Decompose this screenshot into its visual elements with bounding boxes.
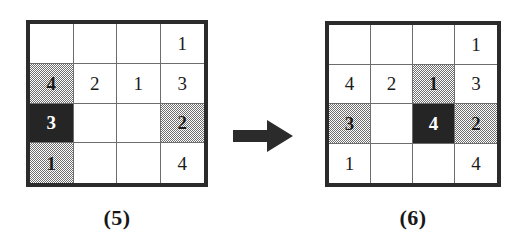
grid-6: 1 4 2 1 3 3 4 2 1 4	[325, 21, 501, 187]
panel-6: 1 4 2 1 3 3 4 2 1 4 (6)	[325, 21, 501, 243]
cell-value: 1	[178, 34, 188, 53]
cell-r4c3[interactable]	[413, 144, 455, 184]
cell-r1c4[interactable]: 1	[161, 24, 205, 64]
cell-value: 4	[345, 74, 355, 93]
cell-r1c4[interactable]: 1	[455, 25, 497, 65]
cell-value: 1	[429, 74, 439, 93]
cell-r2c4[interactable]: 3	[161, 64, 205, 104]
cell-r2c2[interactable]: 2	[371, 65, 413, 105]
cell-r2c3[interactable]: 1	[117, 64, 161, 104]
cell-r1c1[interactable]	[30, 24, 74, 64]
grid-5: 1 4 2 1 3 3 2 1 4	[26, 20, 208, 187]
cell-value: 3	[345, 114, 355, 133]
cell-r4c4[interactable]: 4	[455, 144, 497, 184]
cell-r3c2[interactable]	[74, 104, 118, 144]
figure-canvas: 1 4 2 1 3 3 2 1 4 (5)	[0, 0, 526, 247]
cell-r3c1[interactable]: 3	[329, 104, 371, 144]
cell-value: 4	[471, 154, 481, 173]
cell-r4c4[interactable]: 4	[161, 143, 205, 183]
cell-r1c3[interactable]	[117, 24, 161, 64]
panel-5-caption: (5)	[26, 205, 208, 231]
cell-r4c1[interactable]: 1	[30, 143, 74, 183]
cell-r2c4[interactable]: 3	[455, 65, 497, 105]
cell-value: 4	[178, 154, 188, 173]
cell-value: 1	[471, 35, 481, 54]
cell-r3c1[interactable]: 3	[30, 104, 74, 144]
grid-5-cells: 1 4 2 1 3 3 2 1 4	[30, 24, 204, 183]
right-arrow-icon	[231, 119, 295, 153]
cell-r1c1[interactable]	[329, 25, 371, 65]
cell-value: 2	[90, 74, 100, 93]
cell-r4c2[interactable]	[74, 143, 118, 183]
cell-r1c2[interactable]	[74, 24, 118, 64]
cell-r3c4[interactable]: 2	[161, 104, 205, 144]
cell-value: 4	[429, 114, 439, 133]
cell-value: 3	[178, 74, 188, 93]
cell-value: 2	[471, 114, 481, 133]
cell-value: 2	[178, 113, 188, 132]
cell-value: 3	[47, 113, 57, 132]
grid-6-cells: 1 4 2 1 3 3 4 2 1 4	[329, 25, 497, 183]
cell-value: 1	[47, 154, 57, 173]
cell-r2c2[interactable]: 2	[74, 64, 118, 104]
cell-r4c2[interactable]	[371, 144, 413, 184]
cell-r3c4[interactable]: 2	[455, 104, 497, 144]
panel-6-caption: (6)	[325, 205, 501, 231]
cell-value: 3	[471, 74, 481, 93]
cell-r2c3[interactable]: 1	[413, 65, 455, 105]
panel-5: 1 4 2 1 3 3 2 1 4 (5)	[26, 20, 208, 242]
cell-value: 2	[387, 74, 397, 93]
cell-r1c3[interactable]	[413, 25, 455, 65]
cell-value: 4	[47, 74, 57, 93]
right-arrow-svg	[231, 119, 295, 153]
cell-r3c3[interactable]: 4	[413, 104, 455, 144]
cell-r4c1[interactable]: 1	[329, 144, 371, 184]
cell-r3c3[interactable]	[117, 104, 161, 144]
cell-r3c2[interactable]	[371, 104, 413, 144]
cell-value: 1	[345, 154, 355, 173]
cell-r2c1[interactable]: 4	[329, 65, 371, 105]
cell-value: 1	[134, 74, 144, 93]
cell-r4c3[interactable]	[117, 143, 161, 183]
cell-r2c1[interactable]: 4	[30, 64, 74, 104]
cell-r1c2[interactable]	[371, 25, 413, 65]
